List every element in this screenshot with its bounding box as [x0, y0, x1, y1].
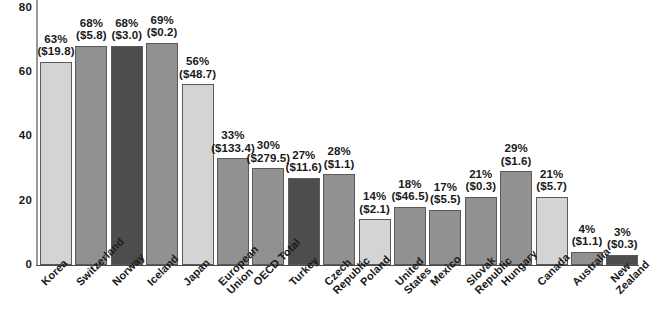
bar[interactable] — [217, 158, 249, 264]
bar-percent-label: 21% — [536, 168, 567, 181]
bar-percent-label: 56% — [179, 55, 216, 68]
bar-amount-label: ($3.0) — [111, 29, 142, 42]
bar-value-label: 3%($0.3) — [607, 226, 638, 251]
bar-value-label: 29%($1.6) — [501, 142, 532, 167]
bar-group: 69%($0.2) — [146, 0, 178, 265]
bar-group: 56%($48.7) — [182, 0, 214, 265]
bar-percent-label: 3% — [607, 226, 638, 239]
y-tick-label: 40 — [19, 130, 32, 141]
bar-percent-label: 28% — [324, 145, 355, 158]
bar-value-label: 28%($1.1) — [324, 145, 355, 170]
bar-amount-label: ($279.5) — [247, 152, 291, 165]
y-tick-label: 60 — [19, 66, 32, 77]
y-tick-label: 20 — [19, 195, 32, 206]
bar-amount-label: ($19.8) — [37, 45, 74, 58]
bar[interactable] — [111, 46, 143, 265]
bar[interactable] — [323, 174, 355, 264]
bar-percent-label: 68% — [76, 17, 107, 30]
y-tick-label: 80 — [19, 2, 32, 13]
bar-percent-label: 63% — [37, 33, 74, 46]
bar-amount-label: ($5.7) — [536, 180, 567, 193]
bar-group: 30%($279.5) — [252, 0, 284, 265]
bar-value-label: 14%($2.1) — [359, 190, 390, 215]
bar-group: 33%($133.4) — [217, 0, 249, 265]
bar[interactable] — [75, 46, 107, 265]
bar-group: 63%($19.8) — [40, 0, 72, 265]
bar-group: 18%($46.5) — [394, 0, 426, 265]
bar-group: 4%($1.1) — [571, 0, 603, 265]
bar[interactable] — [146, 43, 178, 265]
bar-value-label: 18%($46.5) — [391, 178, 428, 203]
bar-value-label: 69%($0.2) — [147, 14, 178, 39]
bar-percent-label: 21% — [465, 168, 496, 181]
bar-value-label: 17%($5.5) — [430, 181, 461, 206]
bar-amount-label: ($11.6) — [286, 161, 323, 174]
bar-value-label: 68%($3.0) — [111, 17, 142, 42]
bar-group: 68%($5.8) — [75, 0, 107, 265]
bar-percent-label: 14% — [359, 190, 390, 203]
bar-amount-label: ($0.3) — [465, 180, 496, 193]
bar-percent-label: 27% — [286, 149, 323, 162]
bar-percent-label: 69% — [147, 14, 178, 27]
bar-amount-label: ($1.6) — [501, 155, 532, 168]
bar-value-label: 27%($11.6) — [286, 149, 323, 174]
bar-amount-label: ($48.7) — [179, 68, 216, 81]
bar-percent-label: 30% — [247, 139, 291, 152]
y-axis: 020406080 — [0, 0, 36, 270]
bar-percent-label: 4% — [572, 223, 603, 236]
bar-value-label: 68%($5.8) — [76, 17, 107, 42]
bar-amount-label: ($0.2) — [147, 26, 178, 39]
bar-value-label: 56%($48.7) — [179, 55, 216, 80]
plot-area: 63%($19.8)68%($5.8)68%($3.0)69%($0.2)56%… — [36, 0, 639, 266]
bar-group: 27%($11.6) — [288, 0, 320, 265]
bar-group: 21%($0.3) — [465, 0, 497, 265]
bar-percent-label: 68% — [111, 17, 142, 30]
bar-value-label: 21%($0.3) — [465, 168, 496, 193]
bar-amount-label: ($0.3) — [607, 238, 638, 251]
bar-value-label: 21%($5.7) — [536, 168, 567, 193]
bar-amount-label: ($2.1) — [359, 203, 390, 216]
bar-percent-label: 18% — [391, 178, 428, 191]
bar-group: 28%($1.1) — [323, 0, 355, 265]
bar[interactable] — [182, 84, 214, 264]
bar[interactable] — [465, 197, 497, 265]
bar-percent-label: 29% — [501, 142, 532, 155]
y-tick-label: 0 — [25, 259, 32, 270]
bar-value-label: 63%($19.8) — [37, 33, 74, 58]
bar-value-label: 30%($279.5) — [247, 139, 291, 164]
bar-amount-label: ($5.8) — [76, 29, 107, 42]
bar-percent-label: 17% — [430, 181, 461, 194]
bar-value-label: 4%($1.1) — [572, 223, 603, 248]
bar-amount-label: ($46.5) — [391, 190, 428, 203]
bar-amount-label: ($5.5) — [430, 193, 461, 206]
bar[interactable] — [40, 62, 72, 265]
bar-group: 68%($3.0) — [111, 0, 143, 265]
bar-group: 14%($2.1) — [359, 0, 391, 265]
bar-group: 21%($5.7) — [536, 0, 568, 265]
bar-amount-label: ($1.1) — [324, 158, 355, 171]
bar[interactable] — [394, 207, 426, 265]
x-axis-labels: KoreaSwitzerlandNorwayIcelandJapanEurope… — [36, 266, 639, 332]
bar-group: 29%($1.6) — [500, 0, 532, 265]
bar-amount-label: ($1.1) — [572, 235, 603, 248]
bar-group: 3%($0.3) — [606, 0, 638, 265]
bar-group: 17%($5.5) — [429, 0, 461, 265]
